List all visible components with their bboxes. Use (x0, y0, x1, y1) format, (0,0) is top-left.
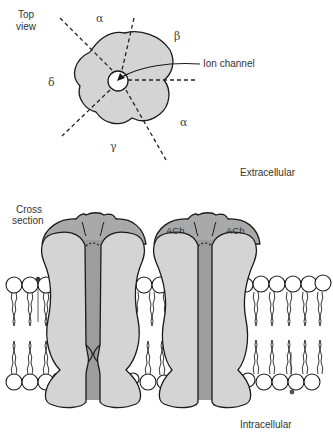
receptor-channel-closed (42, 213, 146, 408)
channel-pore (197, 240, 213, 400)
extracellular-label: Extracellular (240, 167, 296, 178)
subunit-label-gamma: γ (110, 140, 117, 153)
ion-channel-pore (108, 71, 128, 91)
subunit-label-alpha-top: α (96, 12, 104, 25)
top-view-label-line2: view (16, 21, 37, 32)
ach-binding-label-right: ACh (226, 225, 244, 236)
ion-channel-label: Ion channel (203, 58, 255, 69)
diagram-canvas: Top view Ion channel α β α γ δ Extracell… (0, 0, 333, 439)
top-view: Top view Ion channel α β α γ δ (16, 9, 255, 160)
lipid-bilayer-right (239, 275, 331, 394)
subunit-label-delta: δ (48, 76, 55, 89)
intracellular-label: Intracellular (240, 419, 292, 430)
channel-pore (84, 240, 102, 400)
cross-section-label-line2: section (12, 215, 44, 226)
subunit-label-alpha-bottom: α (180, 116, 188, 129)
ach-binding-label-left: ACh (166, 225, 184, 236)
top-view-label-line1: Top (18, 9, 35, 20)
cross-section-label-line1: Cross (16, 204, 42, 215)
subunit-label-beta: β (174, 30, 180, 43)
receptor-channel-open: ACh ACh (154, 213, 260, 408)
